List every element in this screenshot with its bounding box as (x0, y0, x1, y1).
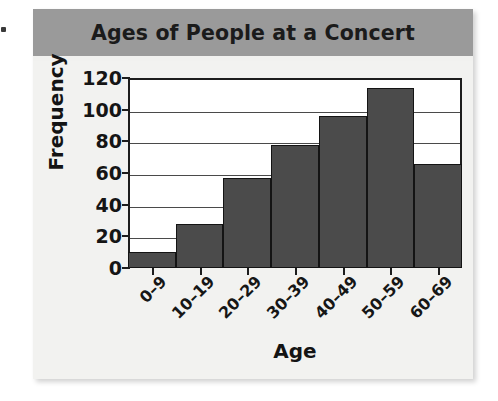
y-tick-label: 80 (68, 130, 122, 152)
bar-50-59 (367, 88, 415, 269)
bar-20-29 (223, 178, 271, 268)
y-tick-label: 40 (68, 194, 122, 216)
bar-10-19 (176, 224, 224, 268)
bars-layer (128, 78, 462, 268)
y-tick-label: 120 (68, 67, 122, 89)
y-tick-label: 20 (68, 225, 122, 247)
y-tick-label: 100 (68, 99, 122, 121)
chart-title-band: Ages of People at a Concert (33, 9, 473, 56)
y-tick-mark (122, 235, 130, 237)
y-tick-label: 60 (68, 162, 122, 184)
scan-artifact-mark (1, 27, 6, 32)
bar-0-9 (128, 252, 176, 268)
bar-30-39 (271, 145, 319, 269)
chart-title: Ages of People at a Concert (91, 21, 415, 45)
y-tick-mark (122, 267, 130, 269)
bar-60-69 (414, 164, 462, 269)
y-tick-label: 0 (68, 257, 122, 279)
y-tick-mark (122, 172, 130, 174)
y-axis-title: Frequency (44, 37, 68, 187)
y-tick-mark (122, 109, 130, 111)
figure-screenshot: Ages of People at a Concert 020406080100… (0, 0, 498, 401)
y-tick-mark (122, 140, 130, 142)
y-tick-mark (122, 77, 130, 79)
y-tick-mark (122, 204, 130, 206)
bar-40-49 (319, 116, 367, 268)
x-axis-title: Age (128, 339, 462, 363)
y-axis-tick-labels: 020406080100120 (62, 78, 122, 268)
